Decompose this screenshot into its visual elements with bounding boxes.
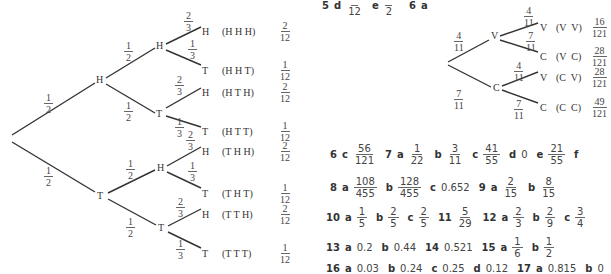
node-label: H [157,162,164,173]
branch-prob: 13 [188,160,206,183]
branch-prob: 23 [176,196,194,219]
branch-prob: 411 [512,60,535,83]
leaf-row: H (T H H) 212 [202,140,301,163]
leaf-node: H [202,209,222,220]
leaf-row: T (T H T) 112 [202,182,301,205]
branch-prob: 711 [452,88,475,111]
leaf-outcome: (T T H) [222,209,278,220]
right-tree-labels: 411 711 V C 411 711 411 711 V (V V) 1612… [0,0,611,140]
answer-row-6-7: 6 c 56121 7 a 122 b 311 c 4155 d 0 e 215… [330,143,583,166]
branch-prob: 411 [452,30,475,53]
leaf-outcome: (T H H) [222,146,278,157]
node-label: V [491,30,498,41]
branch-prob: 12 [44,165,62,188]
node-label: T [158,222,164,233]
leaf-row: C (V C) 28121 [540,45,611,68]
leaf-outcome: (T T T) [222,248,278,259]
leaf-row: C (C C) 49121 [540,96,611,119]
node-label: C [493,82,500,93]
answer-row-8-9: 8 a 108455 b 128455 c 0.652 9 a 215 b 81… [330,176,566,199]
branch-prob: 12 [126,216,144,239]
leaf-outcome: (T H T) [222,188,278,199]
answer-row-10-12: 10 a 15 b 25 c 25 11 529 12 a 23 b 29 c … [326,206,594,229]
leaf-row: V (C V) 28121 [540,66,611,89]
leaf-row: T (T T T) 112 [202,242,301,265]
answer-row-16-17: 16 a 0.03 b 0.24 c 0.25 d 0.12 17 a 0.81… [326,263,611,274]
leaf-row: V (V V) 16121 [540,16,611,39]
node-label: T [97,190,103,201]
branch-prob: 12 [126,158,144,181]
branch-prob: 13 [176,238,194,261]
answer-row-13-15: 13 a 0.2 b 0.44 14 0.521 15 a 16 b 12 [326,236,563,259]
leaf-node: H [202,146,222,157]
leaf-row: H (T T H) 212 [202,203,301,226]
leaf-node: T [202,188,222,199]
leaf-node: T [202,248,222,259]
branch-prob: 711 [512,98,535,121]
